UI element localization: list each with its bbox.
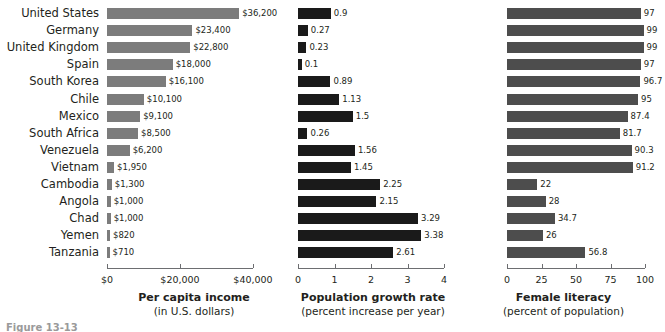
bar-row: 87.4 — [507, 110, 645, 126]
bar — [507, 230, 543, 241]
bar-row: 22 — [507, 178, 645, 194]
figure-caption: Figure 13-13 — [6, 322, 78, 332]
bar-value-label: $6,200 — [133, 143, 163, 157]
bar-value-label: 0.89 — [333, 74, 352, 88]
x-axis-line — [107, 268, 253, 269]
bar-value-label: 2.61 — [396, 245, 415, 259]
bar-row: $23,400 — [107, 24, 253, 40]
x-axis-tick-label: $20,000 — [160, 274, 199, 285]
bar-row: 99 — [507, 24, 645, 40]
bar-value-label: 99 — [647, 23, 658, 37]
bar-row: 2.25 — [298, 178, 444, 194]
bar-row: 1.56 — [298, 144, 444, 160]
bar — [507, 247, 585, 258]
country-label: Yemen — [61, 227, 99, 243]
x-axis-subtitle: (percent of population) — [462, 305, 665, 317]
country-label: Vietnam — [51, 159, 99, 175]
bar-row: 3.29 — [298, 212, 444, 228]
bar-value-label: $22,800 — [193, 40, 228, 54]
x-axis-tick-label: 0 — [295, 274, 301, 285]
bar-row: $22,800 — [107, 41, 253, 57]
bar-value-label: $1,950 — [117, 160, 147, 174]
bar-value-label: 97 — [644, 57, 655, 71]
x-axis-tick-label: 1 — [331, 274, 337, 285]
bar-value-label: 0.23 — [309, 40, 328, 54]
country-label: Mexico — [59, 108, 99, 124]
bar-value-label: $820 — [113, 228, 135, 242]
bar-value-label: 56.8 — [588, 245, 607, 259]
country-label: Angola — [59, 193, 99, 209]
x-axis-tick — [180, 264, 181, 268]
x-axis-tick — [444, 264, 445, 268]
x-axis-tick-label: $0 — [101, 274, 113, 285]
bar — [298, 76, 330, 87]
x-axis-tick — [298, 264, 299, 268]
bar-value-label: $16,100 — [169, 74, 204, 88]
bar-row: 0.23 — [298, 41, 444, 57]
bar — [298, 111, 353, 122]
x-axis-tick-label: 4 — [441, 274, 447, 285]
x-axis-subtitle: (percent increase per year) — [290, 305, 456, 317]
bar-row: $710 — [107, 246, 253, 262]
country-label: Cambodia — [41, 176, 99, 192]
bar-row: 97 — [507, 7, 645, 23]
x-axis-tick-label: 0 — [504, 274, 510, 285]
bar-value-label: 81.7 — [623, 126, 642, 140]
bar — [507, 162, 633, 173]
bar — [507, 111, 628, 122]
bar-row: $18,000 — [107, 58, 253, 74]
bar-row: 3.38 — [298, 229, 444, 245]
bar-row: 1.13 — [298, 93, 444, 109]
bar — [107, 59, 173, 70]
bar-row: 0.26 — [298, 127, 444, 143]
plot-area-growth: 0.90.270.230.10.891.131.50.261.561.452.2… — [298, 0, 444, 266]
bar — [507, 42, 644, 53]
bar — [107, 145, 130, 156]
panel-per-capita-income: $36,200$23,400$22,800$18,000$16,100$10,1… — [103, 0, 285, 332]
x-axis-tick — [107, 264, 108, 268]
bar-row: $36,200 — [107, 7, 253, 23]
bar — [507, 25, 644, 36]
bar — [298, 162, 351, 173]
bar-row: $9,100 — [107, 110, 253, 126]
x-axis-tick-label: 100 — [636, 274, 654, 285]
bar — [107, 76, 166, 87]
bar-row: 90.3 — [507, 144, 645, 160]
figure-three-panel-bar-charts: United StatesGermanyUnited KingdomSpainS… — [0, 0, 665, 332]
x-axis-tick — [542, 264, 543, 268]
country-label: South Africa — [29, 125, 99, 141]
x-axis-title: Per capita income — [103, 291, 285, 304]
bar-value-label: 3.38 — [424, 228, 443, 242]
bar-row: 28 — [507, 195, 645, 211]
bar — [107, 196, 111, 207]
bar-value-label: 28 — [549, 194, 560, 208]
bar-value-label: 2.15 — [379, 194, 398, 208]
bar-value-label: 91.2 — [636, 160, 655, 174]
x-axis-tick — [253, 264, 254, 268]
bar — [298, 59, 302, 70]
bar-row: 34.7 — [507, 212, 645, 228]
x-axis-tick-label: 75 — [604, 274, 616, 285]
bar-value-label: $18,000 — [176, 57, 211, 71]
bar — [107, 128, 138, 139]
bar-row: $1,000 — [107, 212, 253, 228]
bar-value-label: $9,100 — [143, 109, 173, 123]
x-axis-tick — [335, 264, 336, 268]
bar — [507, 8, 641, 19]
bar — [298, 8, 331, 19]
bar — [298, 128, 307, 139]
country-label-column: United StatesGermanyUnited KingdomSpainS… — [0, 0, 103, 266]
x-axis-title: Female literacy — [462, 291, 665, 304]
bar — [298, 145, 355, 156]
bar — [107, 25, 192, 36]
bar — [507, 213, 555, 224]
x-axis-tick — [371, 264, 372, 268]
panel-female-literacy: 9799999796.79587.481.790.391.2222834.726… — [462, 0, 665, 332]
bar — [298, 94, 339, 105]
bar-row: 56.8 — [507, 246, 645, 262]
bar-value-label: $710 — [113, 245, 135, 259]
bar-value-label: 1.56 — [358, 143, 377, 157]
bar-row: 1.5 — [298, 110, 444, 126]
bar — [298, 247, 393, 258]
x-axis-tick — [611, 264, 612, 268]
